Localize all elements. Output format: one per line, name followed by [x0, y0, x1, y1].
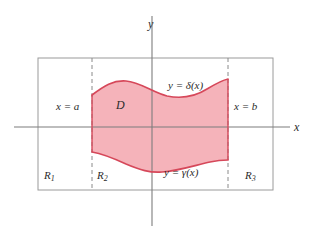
y-axis-label: y: [148, 18, 153, 30]
region-r2-label: R2: [97, 170, 108, 183]
region-r1-label: R1: [44, 170, 55, 183]
region-r1-base: R: [44, 169, 51, 181]
region-r1-subscript: 1: [51, 174, 55, 183]
x-equals-b-label: x = b: [234, 101, 257, 112]
region-r3-subscript: 3: [252, 174, 256, 183]
x-equals-a-label: x = a: [56, 101, 79, 112]
region-r2-base: R: [97, 169, 104, 181]
x-axis-label: x: [294, 121, 299, 133]
upper-curve-label: y = δ(x): [168, 80, 203, 91]
lower-curve-label: y = γ(x): [164, 167, 198, 178]
figure-canvas: [0, 0, 311, 237]
region-r3-label: R3: [245, 170, 256, 183]
region-r2-subscript: 2: [104, 174, 108, 183]
region-d-label: D: [116, 99, 125, 111]
region-r3-base: R: [245, 169, 252, 181]
math-figure: y x x = a x = b D y = δ(x) y = γ(x) R1 R…: [0, 0, 311, 237]
